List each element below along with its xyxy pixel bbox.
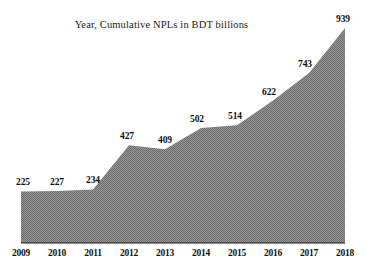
plot-area	[0, 0, 367, 270]
area-chart: Year, Cumulative NPLs in BDT billions 22…	[0, 0, 367, 270]
area-series-shape	[21, 28, 345, 243]
